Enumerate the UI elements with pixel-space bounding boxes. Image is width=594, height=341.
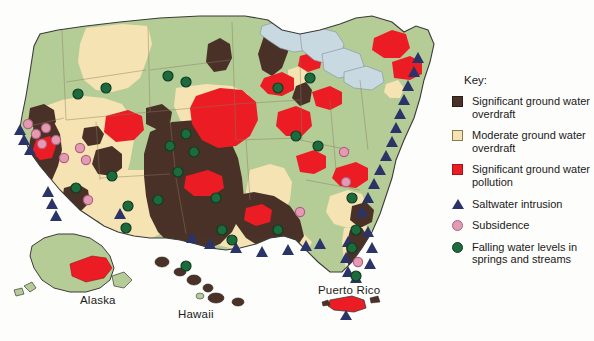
circle-green-icon [452, 241, 472, 253]
map-label-hawaii: Hawaii [178, 308, 214, 320]
legend-item-significant-overdraft: Significant ground water overdraft [452, 95, 594, 120]
legend-title: Key: [464, 74, 594, 86]
puerto-rico-inset [322, 296, 380, 320]
legend-label: Subsidence [472, 219, 530, 232]
legend-label: Falling water levels in springs and stre… [472, 241, 590, 266]
map-label-alaska: Alaska [80, 294, 116, 306]
circle-pink-icon [452, 219, 472, 231]
map-area: Alaska Hawaii Puerto Rico [0, 0, 450, 341]
legend-item-significant-pollution: Significant ground water pollution [452, 163, 594, 188]
swatch-dark-brown-icon [452, 95, 472, 107]
legend-item-moderate-overdraft: Moderate ground water overdraft [452, 129, 594, 154]
legend-label: Moderate ground water overdraft [472, 129, 590, 154]
legend-item-saltwater-intrusion: Saltwater intrusion [452, 198, 594, 211]
hawaii-inset [155, 257, 244, 306]
map-label-puerto-rico: Puerto Rico [318, 284, 380, 296]
legend-label: Significant ground water pollution [472, 163, 590, 188]
legend-label: Saltwater intrusion [472, 198, 563, 211]
us-groundwater-map [0, 0, 450, 341]
triangle-navy-icon [452, 198, 472, 209]
legend-item-falling-water-levels: Falling water levels in springs and stre… [452, 241, 594, 266]
alaska-inset [14, 234, 132, 296]
groundwater-map-figure: Alaska Hawaii Puerto Rico Key: Significa… [0, 0, 594, 341]
legend-item-subsidence: Subsidence [452, 219, 594, 232]
swatch-red-icon [452, 163, 472, 175]
legend: Key: Significant ground water overdraft … [452, 74, 594, 275]
swatch-tan-icon [452, 129, 472, 141]
legend-label: Significant ground water overdraft [472, 95, 590, 120]
